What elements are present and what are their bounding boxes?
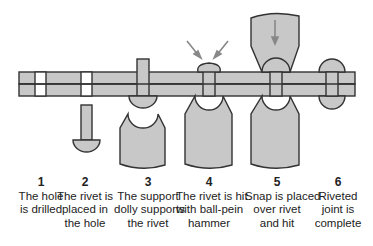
hammer-arrow-left-icon	[187, 41, 201, 58]
loose-rivet-head	[73, 140, 100, 152]
step-number: 6	[313, 176, 363, 190]
support-dolly-step3	[120, 114, 165, 168]
support-dolly-step4	[185, 96, 232, 168]
support-dolly-step5	[251, 96, 299, 168]
step-5-caption: 5 Snap is placed over rivet and hit	[245, 176, 309, 230]
step-6-caption: 6 Riveted joint is complete	[313, 176, 363, 230]
step-3-caption: 3 The support dolly supports the rivet	[114, 176, 182, 230]
completed-rivet-bottom	[319, 96, 345, 109]
hammer-arrow-right-icon	[214, 41, 228, 58]
top-plate	[19, 72, 355, 84]
step-number: 2	[54, 176, 116, 190]
completed-rivet-top	[319, 59, 345, 72]
bottom-plate	[19, 84, 355, 96]
step-number: 4	[176, 176, 242, 190]
loose-rivet-shank	[81, 105, 92, 140]
step-4-caption: 4 The rivet is hit with ball-pein hammer	[176, 176, 242, 230]
rivet-step3	[137, 59, 149, 96]
step-number: 3	[114, 176, 182, 190]
step-number: 5	[245, 176, 309, 190]
step-2-caption: 2 The rivet is placed in the hole	[54, 176, 116, 230]
